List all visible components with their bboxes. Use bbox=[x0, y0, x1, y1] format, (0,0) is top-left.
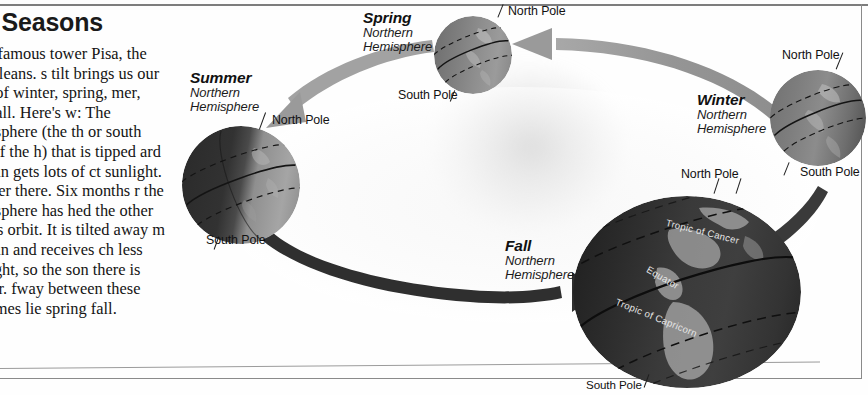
season-name: Summer bbox=[190, 70, 259, 86]
season-name: Spring bbox=[363, 10, 432, 26]
winter-lower-north-pole-label: North Pole bbox=[681, 167, 739, 181]
winter-north-pole-label: North Pole bbox=[782, 48, 840, 62]
globe-spring bbox=[434, 16, 512, 94]
season-name: Winter bbox=[697, 92, 766, 108]
season-subtitle-line1: Northern bbox=[505, 254, 574, 268]
summer-north-pole-label: North Pole bbox=[272, 113, 330, 127]
season-subtitle-line2: Hemisphere bbox=[190, 100, 259, 114]
season-label-summer: Summer Northern Hemisphere bbox=[190, 70, 259, 115]
spring-north-pole-label: North Pole bbox=[508, 4, 566, 18]
season-name: Fall bbox=[505, 238, 574, 254]
season-label-fall: Fall Northern Hemisphere bbox=[505, 238, 574, 283]
winter-south-pole-label: South Pole bbox=[800, 165, 860, 179]
season-subtitle-line1: Northern bbox=[363, 26, 432, 40]
orbit-arrow-upper-head bbox=[512, 28, 552, 60]
globe-winter bbox=[770, 70, 866, 166]
spring-south-pole-label: South Pole bbox=[398, 88, 458, 102]
globe-summer bbox=[182, 126, 300, 244]
season-label-winter: Winter Northern Hemisphere bbox=[697, 92, 766, 137]
season-subtitle-line2: Hemisphere bbox=[363, 40, 432, 54]
fall-south-pole-label: South Pole bbox=[586, 378, 642, 391]
season-label-spring: Spring Northern Hemisphere bbox=[363, 10, 432, 55]
summer-south-pole-label: South Pole bbox=[206, 233, 266, 247]
season-subtitle-line2: Hemisphere bbox=[505, 268, 574, 282]
magazine-page: he Seasons e the famous tower Pisa, the … bbox=[0, 0, 868, 395]
season-subtitle-line1: Northern bbox=[697, 108, 766, 122]
season-subtitle-line2: Hemisphere bbox=[697, 122, 766, 136]
season-subtitle-line1: Northern bbox=[190, 86, 259, 100]
